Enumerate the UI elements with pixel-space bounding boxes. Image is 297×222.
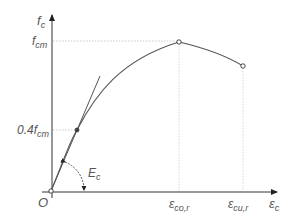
ultimate-point [241, 64, 245, 68]
eco-label: εco,r [169, 197, 190, 213]
y-axis-label: fc [37, 13, 46, 30]
fcm-label: fcm [32, 34, 48, 50]
stress-strain-curve [51, 42, 243, 191]
origin-point [49, 189, 53, 193]
fcm04-point [75, 128, 79, 132]
origin-label: O [38, 195, 48, 210]
peak-point [177, 40, 181, 44]
x-axis-label: εc [269, 196, 280, 213]
fcm04-label: 0.4fcm [17, 123, 50, 139]
stress-strain-diagram: fc fcm 0.4fcm Ec O εco,r εcu,r εc [0, 0, 297, 222]
ecu-label: εcu,r [228, 197, 249, 213]
modulus-label: Ec [88, 166, 101, 182]
modulus-arc [65, 162, 84, 190]
